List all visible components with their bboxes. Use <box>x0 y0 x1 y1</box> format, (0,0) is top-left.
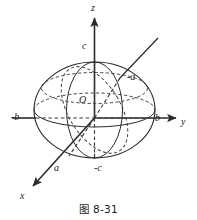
intercept-label-neg-b: -b <box>11 112 19 122</box>
figure-container: z y x O c -c b -b a -a 图 8-31 <box>0 0 197 220</box>
intercept-label-a: a <box>54 163 59 173</box>
x-axis-negative-ray <box>119 38 158 79</box>
intercept-label-b: b <box>155 113 160 123</box>
intercept-label-neg-a: -a <box>127 72 135 82</box>
intercept-label-neg-c: -c <box>94 163 102 173</box>
origin-label: O <box>79 95 86 105</box>
ellipsoid-diagram <box>0 0 197 220</box>
axis-label-z: z <box>91 3 95 13</box>
figure-caption: 图 8-31 <box>0 201 197 216</box>
axis-label-y: y <box>181 117 185 127</box>
axis-label-x: x <box>20 191 24 201</box>
intercept-label-c: c <box>82 41 86 51</box>
